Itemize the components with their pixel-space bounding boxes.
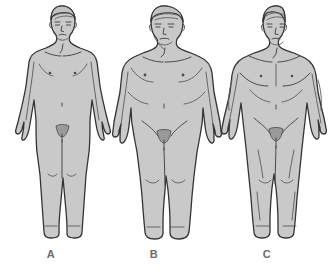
figure-a-nipple-left — [49, 72, 52, 75]
figure-label-a: A — [41, 248, 61, 260]
body-type-illustration: .body { fill: #c9c9c9; stroke: #333333; … — [0, 0, 336, 271]
figure-b-nipple-right — [182, 74, 185, 77]
somatotype-figures-svg: .body { fill: #c9c9c9; stroke: #333333; … — [0, 0, 336, 271]
figure-label-c: C — [257, 248, 277, 260]
figure-b-nipple-left — [144, 74, 147, 77]
figure-label-b: B — [144, 248, 164, 260]
figure-a-nipple-right — [74, 72, 77, 75]
figure-c-nipple-right — [291, 75, 294, 78]
figure-c-nipple-left — [260, 75, 263, 78]
